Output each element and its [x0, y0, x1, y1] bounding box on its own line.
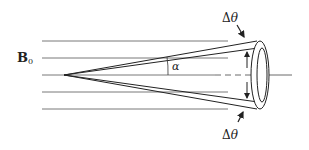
alpha-angle-arc: [167, 57, 168, 75]
bottom-pointer-arrow: [238, 112, 243, 122]
cone-inner-bottom: [64, 75, 258, 102]
b-subscript: 0: [28, 57, 33, 66]
delta-theta-pointers: [237, 25, 244, 122]
delta-theta-top-label: Δθ: [222, 11, 239, 25]
alpha-label: α: [172, 60, 180, 73]
theta-symbol-bottom: θ: [231, 128, 239, 142]
theta-symbol-top: θ: [231, 11, 239, 25]
b-symbol: B: [17, 50, 28, 65]
delta-symbol-bottom: Δ: [222, 128, 231, 142]
b0-label: B0: [17, 50, 33, 66]
top-pointer-arrow: [237, 25, 244, 37]
delta-theta-bottom-label: Δθ: [222, 128, 239, 142]
cone-inner-top: [64, 48, 258, 75]
delta-symbol-top: Δ: [222, 11, 231, 25]
cone-field-diagram: α Δθ Δθ B0: [0, 0, 309, 150]
